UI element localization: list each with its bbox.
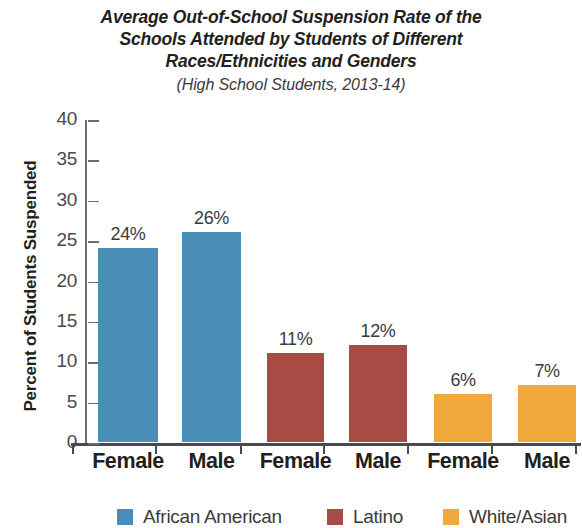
x-axis-line [71,443,581,446]
y-axis-tick-label: 35 [17,148,77,170]
y-axis-tick-label: 0 [17,431,77,453]
chart-subtitle: (High School Students, 2013-14) [0,74,582,95]
bar-value-label: 24% [98,224,158,245]
y-axis-line [85,120,87,444]
x-axis-tick-mark [72,443,74,454]
y-axis-tick-label: 10 [17,350,77,372]
y-axis-tick-mark [88,120,99,122]
bar [349,345,407,442]
bar-value-label: 26% [182,208,241,229]
bar-value-label: 11% [267,329,324,350]
bar [267,353,324,442]
y-axis-tick-label: 5 [17,391,77,413]
chart-title-block: Average Out-of-School Suspension Rate of… [0,6,582,95]
legend-label: White/Asian [469,506,567,528]
y-axis-tick-label: 15 [17,310,77,332]
legend-item[interactable]: White/Asian [443,505,567,528]
legend-item[interactable]: Latino [327,505,403,528]
y-axis-tick-mark [88,201,99,203]
y-axis-tick-mark [88,443,99,445]
legend-label: Latino [353,506,403,528]
y-axis-tick-mark [88,160,99,162]
chart-title-line-3: Races/Ethnicities and Genders [0,50,582,72]
legend-label: African American [143,506,282,528]
bar [518,385,576,442]
legend-swatch-icon [327,509,343,525]
bar-value-label: 7% [518,361,576,382]
chart-legend: African AmericanLatinoWhite/Asian [0,505,582,528]
chart-title-line-1: Average Out-of-School Suspension Rate of… [0,6,582,28]
chart-title-line-2: Schools Attended by Students of Differen… [0,28,582,50]
y-axis-tick-label: 20 [17,270,77,292]
y-axis-tick-label: 40 [17,108,77,130]
plot-area: 4035302520151050 24%26%11%12%6%7% [85,120,581,443]
y-axis-tick-label: 25 [17,229,77,251]
legend-item[interactable]: African American [117,505,282,528]
bar [182,232,241,442]
x-axis-category-label: Male [329,449,427,474]
bar [434,394,492,442]
y-axis-tick-label: 30 [17,189,77,211]
legend-swatch-icon [443,509,459,525]
bar-value-label: 12% [349,321,407,342]
bar [98,248,158,442]
x-axis-category-label: Male [498,449,582,474]
bar-value-label: 6% [434,370,492,391]
legend-swatch-icon [117,509,133,525]
